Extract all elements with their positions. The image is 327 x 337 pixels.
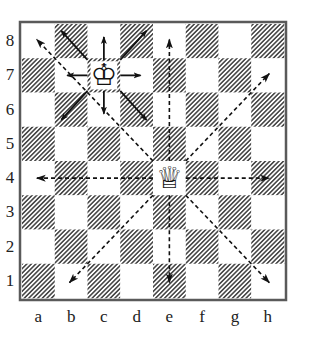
square-g3 (219, 195, 252, 230)
square-f8 (186, 24, 219, 59)
square-a6 (22, 93, 55, 128)
file-label-b: b (61, 308, 81, 325)
rank-label-8: 8 (3, 32, 17, 49)
square-a7 (22, 58, 55, 93)
file-label-a: a (28, 308, 48, 325)
file-label-f: f (192, 308, 212, 325)
rank-label-7: 7 (3, 66, 17, 83)
rank-label-6: 6 (3, 101, 17, 118)
square-c1 (88, 264, 121, 299)
square-f2 (186, 230, 219, 265)
square-a2 (22, 230, 55, 265)
file-label-g: g (225, 308, 245, 325)
square-g1 (219, 264, 252, 299)
file-label-h: h (258, 308, 278, 325)
white-queen-icon: ♕ (156, 160, 183, 195)
chess-diagram: ♔♕ 87654321 abcdefgh (0, 0, 327, 337)
square-h2 (251, 230, 284, 265)
square-g8 (219, 24, 252, 59)
rank-label-1: 1 (3, 272, 17, 289)
file-label-e: e (159, 308, 179, 325)
square-a1 (22, 264, 55, 299)
square-f1 (186, 264, 219, 299)
square-h5 (251, 127, 284, 162)
square-c3 (88, 195, 121, 230)
square-h8 (251, 24, 284, 59)
square-a5 (22, 127, 55, 162)
rank-label-3: 3 (3, 203, 17, 220)
square-f7 (186, 58, 219, 93)
rank-label-2: 2 (3, 238, 17, 255)
file-label-d: d (127, 308, 147, 325)
square-b2 (55, 230, 88, 265)
square-a3 (22, 195, 55, 230)
square-f6 (186, 93, 219, 128)
square-d2 (120, 230, 153, 265)
white-king-icon: ♔ (90, 57, 117, 92)
square-b3 (55, 195, 88, 230)
square-g7 (219, 58, 252, 93)
square-c5 (88, 127, 121, 162)
file-label-c: c (94, 308, 114, 325)
rank-label-4: 4 (3, 169, 17, 186)
square-h6 (251, 93, 284, 128)
chessboard: ♔♕ (0, 0, 327, 337)
square-d1 (120, 264, 153, 299)
square-b5 (55, 127, 88, 162)
square-g5 (219, 127, 252, 162)
square-h3 (251, 195, 284, 230)
rank-label-5: 5 (3, 135, 17, 152)
